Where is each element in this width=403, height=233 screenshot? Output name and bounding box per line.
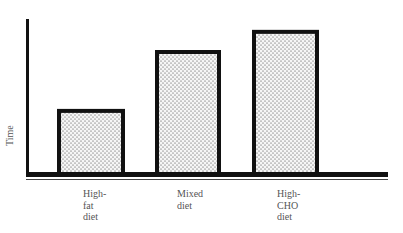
bars-group [59,32,317,174]
bar-high-cho-diet [254,32,317,174]
category-label-mixed: Mixed diet [177,188,203,211]
category-label-high-fat: High- fat diet [83,188,106,223]
x-axis-baseline [26,172,388,177]
y-axis-label: Time [4,125,15,146]
bar-high-fat-diet [59,111,123,174]
bar-mixed-diet [157,52,219,174]
x-axis-underline [26,179,388,180]
category-label-high-cho: High- CHO diet [277,188,300,223]
y-axis [26,19,29,177]
